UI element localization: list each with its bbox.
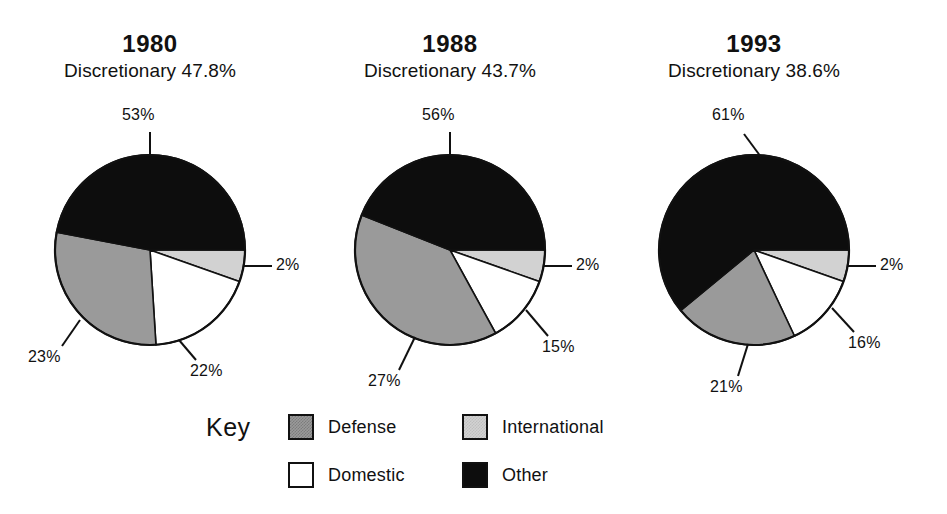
chart-panel-1980: 1980 Discretionary 47.8% 5 <box>0 0 300 400</box>
legend-label-other: Other <box>502 465 548 486</box>
legend-label-domestic: Domestic <box>328 465 405 486</box>
leader-line-defense-1980 <box>62 320 80 346</box>
legend-item-other: Other <box>462 462 548 488</box>
leader-line-domestic-1988 <box>526 310 548 336</box>
chart-panel-1988: 1988 Discretionary 43.7% 56% 2% 15% <box>300 0 600 400</box>
legend-item-defense: Defense <box>288 414 396 440</box>
slice-label-domestic-1993: 16% <box>848 334 881 352</box>
panel-subtitle-1988: Discretionary 43.7% <box>300 60 600 82</box>
defense-swatch-icon <box>288 414 314 440</box>
leader-line-other-1993 <box>744 134 761 157</box>
slice-label-international-1988: 2% <box>576 256 600 274</box>
legend-label-international: International <box>502 417 604 438</box>
slice-label-defense-1993: 21% <box>710 378 743 396</box>
other-swatch-icon <box>462 462 488 488</box>
pie-1993: 61% 2% 16% 21% <box>604 92 904 392</box>
pie-chart-figure: 1980 Discretionary 47.8% 5 <box>0 0 947 514</box>
slice-label-domestic-1980: 22% <box>190 362 223 380</box>
international-swatch-icon <box>462 414 488 440</box>
leader-line-domestic-1993 <box>832 308 854 332</box>
chart-legend: Key Defense International Domestic Other <box>0 400 947 514</box>
slice-label-international-1980: 2% <box>276 256 300 274</box>
panel-subtitle-1980: Discretionary 47.8% <box>0 60 300 82</box>
leader-line-defense-1993 <box>738 344 748 376</box>
pie-1988: 56% 2% 15% 27% <box>300 92 600 392</box>
pie-1980: 53% 2% 22% 23% <box>0 92 300 392</box>
slice-label-international-1993: 2% <box>880 256 904 274</box>
legend-item-domestic: Domestic <box>288 462 405 488</box>
panel-title-1988: 1988 <box>300 30 600 58</box>
panel-title-1980: 1980 <box>0 30 300 58</box>
slice-label-other-1980: 53% <box>122 106 155 124</box>
legend-item-international: International <box>462 414 604 440</box>
panel-subtitle-1993: Discretionary 38.6% <box>604 60 904 82</box>
slice-label-domestic-1988: 15% <box>542 338 575 356</box>
slice-label-other-1988: 56% <box>422 106 455 124</box>
pie-svg-1980 <box>0 92 300 392</box>
panel-title-1993: 1993 <box>604 30 904 58</box>
chart-panel-1993: 1993 Discretionary 38.6% 61% 2% 16% <box>604 0 904 400</box>
slice-label-other-1993: 61% <box>712 106 745 124</box>
domestic-swatch-icon <box>288 462 314 488</box>
slice-label-defense-1988: 27% <box>368 372 401 390</box>
leader-line-defense-1988 <box>399 337 415 370</box>
pie-slice-defense-1980 <box>55 232 156 345</box>
legend-title: Key <box>206 413 251 442</box>
leader-line-domestic-1980 <box>179 340 196 360</box>
pie-slice-other-1980 <box>57 155 245 250</box>
slice-label-defense-1980: 23% <box>28 348 61 366</box>
legend-label-defense: Defense <box>328 417 396 438</box>
